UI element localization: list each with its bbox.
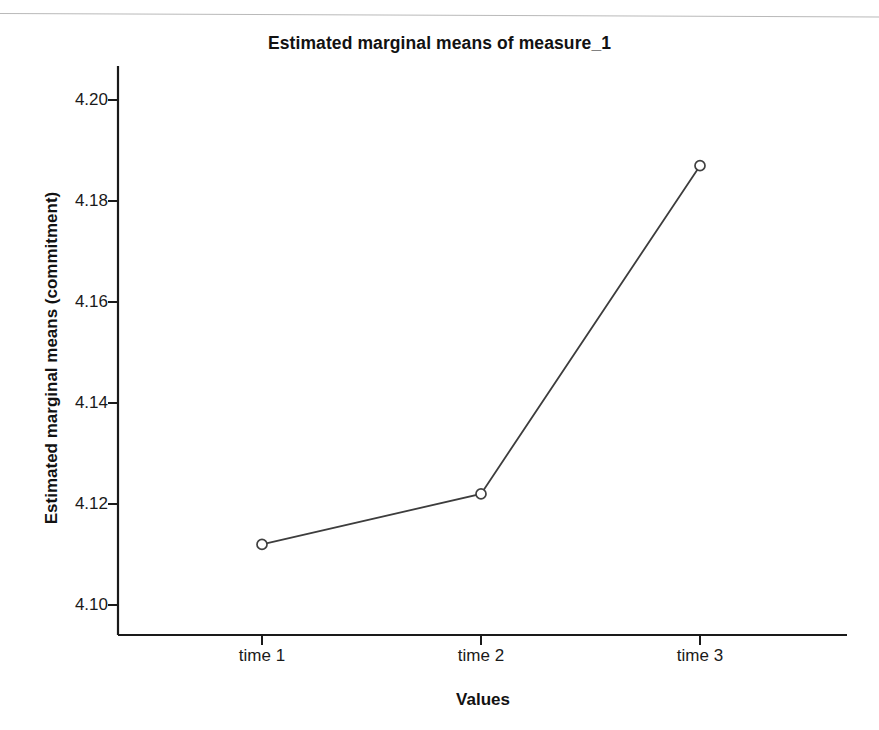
chart-page: Estimated marginal means of measure_1 Es…	[0, 0, 879, 730]
plot-area	[0, 0, 879, 730]
x-axis-ticks	[262, 635, 700, 645]
data-point-marker	[695, 161, 705, 171]
data-point-marker	[257, 539, 267, 549]
series-line-measure-1	[262, 166, 700, 545]
series-markers	[257, 161, 705, 550]
data-point-marker	[476, 489, 486, 499]
y-axis-ticks	[108, 100, 118, 605]
